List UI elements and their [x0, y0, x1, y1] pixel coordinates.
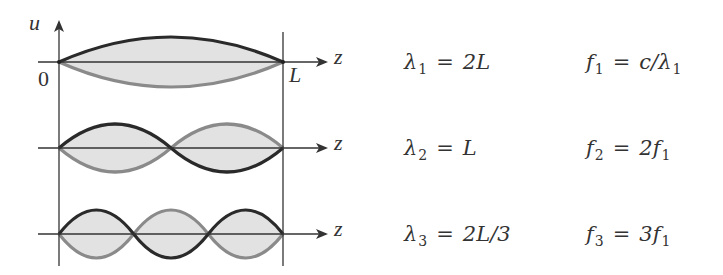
- frequency-equation-mode-2: f2=2f1: [586, 138, 670, 159]
- f-symbol: f: [586, 136, 594, 160]
- equals-sign: =: [613, 136, 631, 160]
- subscript: 1: [672, 61, 681, 77]
- subscript: 1: [418, 61, 427, 77]
- subscript: 3: [595, 233, 604, 249]
- z-axis-label-mode-2: z: [334, 132, 343, 154]
- length-label: L: [289, 64, 301, 86]
- subscript: 1: [661, 233, 670, 249]
- subscript: 2: [418, 147, 427, 163]
- node-dot: [281, 60, 285, 64]
- wavelength-value: L: [463, 136, 477, 160]
- node-dot: [57, 60, 61, 64]
- z-axis-label-mode-3: z: [334, 218, 343, 240]
- wavelength-value: 2L/3: [463, 222, 511, 246]
- lambda-symbol: λ: [404, 222, 417, 246]
- z-axis-label-mode-1: z: [334, 46, 343, 68]
- subscript: 3: [418, 233, 427, 249]
- f-symbol: f: [586, 50, 594, 74]
- subscript: 1: [661, 147, 670, 163]
- origin-label: 0: [38, 68, 49, 90]
- wavelength-equation-mode-3: λ3=2L/3: [404, 224, 511, 245]
- wavelength-equation-mode-2: λ2=L: [404, 138, 477, 159]
- frequency-equation-mode-1: f1=c/λ1: [586, 52, 681, 73]
- wavelength-equation-mode-1: λ1=2L: [404, 52, 490, 73]
- wavelength-value: 2L: [463, 50, 490, 74]
- equals-sign: =: [436, 50, 454, 74]
- lambda-symbol: λ: [404, 50, 417, 74]
- f-symbol: f: [586, 222, 594, 246]
- u-axis-label: u: [29, 12, 40, 34]
- frequency-value: 3f: [639, 222, 660, 246]
- equals-sign: =: [436, 136, 454, 160]
- equals-sign: =: [436, 222, 454, 246]
- frequency-equation-mode-3: f3=3f1: [586, 224, 670, 245]
- equals-sign: =: [613, 222, 631, 246]
- frequency-value: 2f: [639, 136, 660, 160]
- subscript: 2: [595, 147, 604, 163]
- subscript: 1: [595, 61, 604, 77]
- frequency-value: c/λ: [639, 50, 671, 74]
- equals-sign: =: [613, 50, 631, 74]
- lambda-symbol: λ: [404, 136, 417, 160]
- standing-wave-diagram: u 0 L z z z λ1=2L f1=c/λ1 λ2=L f2=2f1 λ3…: [0, 0, 723, 275]
